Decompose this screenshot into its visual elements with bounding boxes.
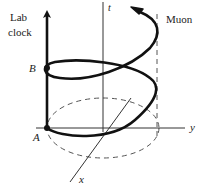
muon-label: Muon (166, 13, 193, 25)
spacetime-diagram: Lab clock Muon t y x A B (0, 0, 211, 190)
y-axis-label: y (189, 121, 195, 133)
x-axis-label: x (78, 173, 84, 185)
event-a-point (44, 125, 50, 131)
event-b-point (44, 65, 50, 71)
t-axis-label: t (108, 2, 111, 13)
lab-clock-label-line2: clock (8, 26, 32, 38)
x-axis-line (70, 98, 131, 182)
lab-clock-label-line1: Lab (10, 11, 28, 23)
event-b-label: B (29, 62, 36, 74)
muon-worldline (45, 12, 157, 136)
event-a-label: A (32, 131, 40, 143)
